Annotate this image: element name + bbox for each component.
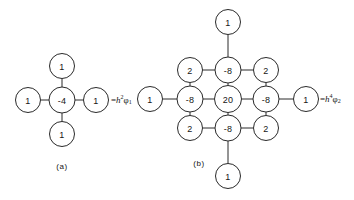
stencil-diagram: -41111(a)=h2φ120-8-8-8-822221111(b)=h4φ2 (0, 0, 354, 200)
stencil-node-value-stencil-b-east-1: -8 (262, 95, 271, 105)
stencil-node-value-stencil-a-north: 1 (59, 62, 64, 72)
stencil-rhs-stencil-a: =h2φ1 (111, 94, 132, 105)
stencil-node-value-stencil-a-south: 1 (59, 130, 64, 140)
stencil-node-value-stencil-b-southeast: 2 (263, 124, 268, 134)
rhs-subscript-stencil-b: 2 (338, 98, 341, 104)
stencil-node-value-stencil-b-north-2: 1 (225, 18, 230, 28)
stencil-node-value-stencil-a-center: -4 (58, 96, 67, 106)
stencil-node-value-stencil-b-center: 20 (223, 95, 234, 105)
stencil-node-value-stencil-a-west: 1 (25, 96, 30, 106)
stencil-node-value-stencil-a-east: 1 (93, 96, 98, 106)
stencil-node-value-stencil-b-north-1: -8 (224, 66, 233, 76)
stencil-node-value-stencil-b-northeast: 2 (263, 66, 268, 76)
stencil-node-value-stencil-b-northwest: 2 (187, 66, 192, 76)
stencil-node-value-stencil-b-south-1: -8 (224, 124, 233, 134)
stencil-caption-stencil-b: (b) (193, 159, 205, 168)
stencil-node-value-stencil-b-west-2: 1 (147, 95, 152, 105)
stencil-node-value-stencil-b-south-2: 1 (225, 172, 230, 182)
stencil-node-value-stencil-b-southwest: 2 (187, 124, 192, 134)
stencil-node-value-stencil-b-west-1: -8 (186, 95, 195, 105)
figure-root: -41111(a)=h2φ120-8-8-8-822221111(b)=h4φ2 (0, 0, 354, 200)
stencil-node-value-stencil-b-east-2: 1 (303, 95, 308, 105)
stencil-caption-stencil-a: (a) (56, 162, 68, 171)
stencil-rhs-stencil-b: =h4φ2 (320, 93, 341, 104)
rhs-subscript-stencil-a: 1 (129, 99, 132, 105)
